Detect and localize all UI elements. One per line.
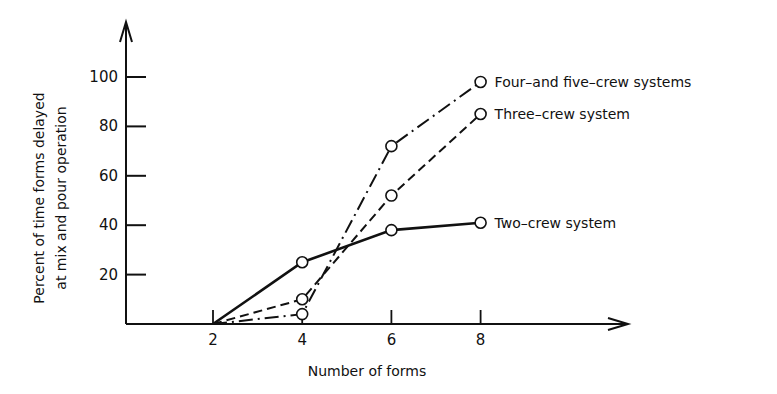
y-tick-label: 60	[99, 167, 118, 185]
x-tick-label: 2	[208, 331, 218, 349]
y-tick-label: 40	[99, 216, 118, 234]
data-point-marker	[386, 190, 397, 201]
y-axis-title-line1: Percent of time forms delayed	[31, 92, 47, 303]
series-line-0	[213, 82, 481, 324]
series-label-1: Three–crew system	[494, 106, 630, 122]
x-tick-label: 6	[387, 331, 397, 349]
series-line-1	[213, 114, 481, 324]
y-tick-label: 20	[99, 266, 118, 284]
x-axis-title: Number of forms	[308, 363, 427, 379]
data-point-marker	[475, 109, 486, 120]
data-point-marker	[475, 217, 486, 228]
labels-group: Number of formsPercent of time forms del…	[31, 74, 691, 379]
series-label-0: Four–and five–crew systems	[495, 74, 692, 90]
series-line-2	[213, 223, 481, 324]
y-tick-label: 100	[89, 68, 118, 86]
data-point-marker	[475, 76, 486, 87]
axes: 204060801002468	[89, 22, 628, 349]
series-label-2: Two–crew system	[494, 215, 617, 231]
data-point-marker	[297, 309, 308, 320]
y-axis-title-line2: at mix and pour operation	[53, 106, 69, 289]
data-point-marker	[297, 257, 308, 268]
x-tick-label: 8	[476, 331, 486, 349]
data-point-marker	[386, 225, 397, 236]
series-group	[213, 76, 486, 324]
x-tick-label: 4	[297, 331, 307, 349]
data-point-marker	[297, 294, 308, 305]
data-point-marker	[386, 141, 397, 152]
y-tick-label: 80	[99, 117, 118, 135]
line-chart: 204060801002468 Number of formsPercent o…	[0, 0, 777, 394]
